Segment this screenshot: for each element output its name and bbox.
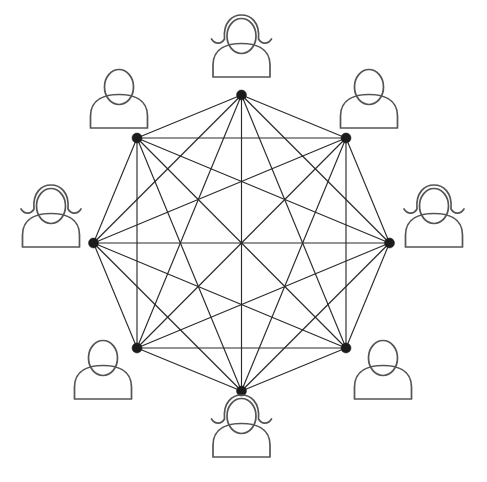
person-male-icon [355,341,412,400]
person-body-shape [213,44,270,78]
person-head-shape [420,189,449,224]
graph-node[interactable] [385,238,395,248]
person-female-icon [212,15,272,77]
person-body-shape [75,366,132,400]
graph-edge [137,138,242,391]
graph-node[interactable] [237,90,247,100]
person-body-shape [355,366,412,400]
person-head-shape [89,341,118,376]
graph-edge [242,138,347,391]
person-female-icon [212,395,272,457]
graph-edge [94,138,347,243]
person-female-icon [404,185,464,247]
person-head-shape [355,70,384,105]
person-body-shape [91,95,148,129]
person-male-icon [341,70,398,129]
person-body-shape [23,214,80,248]
person-head-shape [227,399,256,434]
network-graph-canvas [0,0,487,482]
person-body-shape [406,214,463,248]
person-head-shape [105,70,134,105]
graph-node[interactable] [341,343,351,353]
network-diagram [0,0,487,482]
person-male-icon [75,341,132,400]
person-female-icon [21,185,81,247]
graph-node[interactable] [341,133,351,143]
graph-edge [94,243,347,348]
graph-edge [137,95,242,348]
person-head-shape [369,341,398,376]
graph-edge [137,243,390,348]
graph-node[interactable] [132,133,142,143]
graph-node[interactable] [132,343,142,353]
graph-edge [242,95,347,348]
graph-node[interactable] [89,238,99,248]
person-head-shape [227,19,256,54]
person-male-icon [91,70,148,129]
graph-edge [137,138,390,243]
person-head-shape [37,189,66,224]
person-body-shape [341,95,398,129]
person-body-shape [213,424,270,458]
